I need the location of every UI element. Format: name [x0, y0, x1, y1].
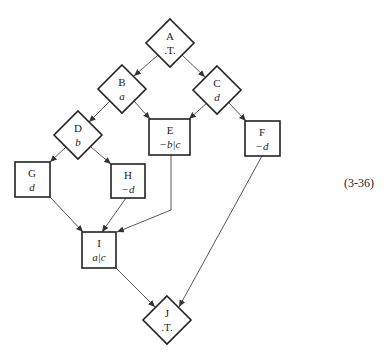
edge-h-i — [102, 198, 126, 232]
edge-i-j — [116, 268, 155, 307]
node-a-name: A — [166, 30, 174, 42]
node-h: H −d — [111, 164, 145, 198]
edge-d-g — [50, 147, 66, 162]
node-h-condition: −d — [122, 183, 135, 195]
edge-d-h — [91, 147, 111, 164]
node-g-condition: d — [29, 181, 35, 193]
edge-c-e — [189, 103, 207, 119]
node-f-condition: −d — [256, 140, 269, 152]
flow-diagram: A .T. B a C d D b E −b|c F −d G d H — [0, 0, 388, 355]
edge-b-e — [134, 101, 150, 119]
node-c-condition: d — [214, 91, 220, 103]
equation-number: (3-36) — [344, 176, 374, 190]
node-e-name: E — [167, 124, 174, 136]
node-e-condition: −b|c — [160, 138, 181, 150]
edge-f-j — [179, 156, 262, 307]
node-b-condition: a — [119, 90, 125, 102]
node-i-condition: a|c — [92, 251, 106, 263]
edge-g-i — [50, 197, 83, 232]
node-h-name: H — [124, 169, 132, 181]
edge-a-b — [134, 55, 158, 76]
node-a-condition: .T. — [164, 44, 176, 56]
node-b-name: B — [118, 76, 125, 88]
node-g-name: G — [28, 167, 36, 179]
node-j: J .T. — [143, 296, 191, 344]
decision-diamond-j — [143, 296, 191, 344]
node-c: C d — [193, 66, 241, 114]
node-d-name: D — [74, 122, 82, 134]
edge-c-f — [229, 103, 246, 121]
node-j-name: J — [165, 307, 170, 319]
node-g: G d — [15, 162, 50, 197]
node-c-name: C — [213, 77, 220, 89]
node-d-condition: b — [75, 136, 81, 148]
node-f-name: F — [259, 126, 265, 138]
edge-b-d — [89, 101, 110, 122]
node-i-name: I — [97, 237, 101, 249]
node-i: I a|c — [82, 232, 116, 268]
decision-diamond-c — [193, 66, 241, 114]
node-j-condition: .T. — [161, 321, 173, 333]
node-e: E −b|c — [149, 119, 190, 155]
edge-a-c — [182, 55, 205, 77]
node-f: F −d — [245, 121, 280, 156]
